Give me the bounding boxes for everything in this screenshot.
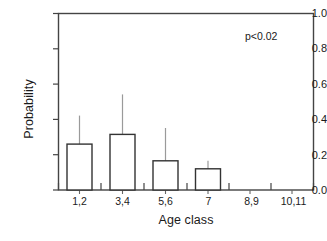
y-tick-label-0.2: 0.2 — [297, 150, 327, 161]
y-tick-label-0.4: 0.4 — [297, 114, 327, 125]
x-tick-label-6: 10,11 — [271, 196, 316, 207]
bars — [67, 134, 221, 190]
y-axis-title: Probability — [22, 39, 36, 179]
y-tick-label-0.6: 0.6 — [297, 79, 327, 90]
p-value-annotation: p<0.02 — [245, 30, 277, 42]
bar-1 — [67, 144, 92, 190]
y-tick-label-1.0: 1.0 — [297, 8, 327, 19]
error-bars — [80, 94, 209, 174]
x-axis-title: Age class — [58, 213, 314, 227]
x-tick-label-4: 7 — [187, 196, 230, 207]
y-tick-marks — [53, 14, 59, 191]
bar-4 — [196, 169, 221, 190]
probability-by-age-class-chart: Probability 1.0 0.8 0.6 0.4 0.2 0.0 1,2 … — [0, 0, 327, 241]
bar-3 — [153, 161, 178, 190]
x-tick-marks — [59, 183, 314, 190]
x-tick-label-3: 5,6 — [144, 196, 187, 207]
x-tick-label-5: 8,9 — [230, 196, 273, 207]
x-tick-label-2: 3,4 — [101, 196, 144, 207]
x-tick-label-1: 1,2 — [58, 196, 101, 207]
bar-2 — [110, 134, 135, 190]
y-tick-label-0.8: 0.8 — [297, 43, 327, 54]
